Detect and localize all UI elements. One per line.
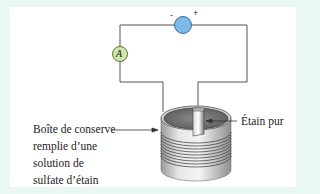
- tin-can-icon: [161, 106, 231, 181]
- can-label-line-1: Boîte de conserve: [33, 121, 115, 138]
- tin-label: Étain pur: [241, 113, 283, 130]
- can-label-line-4: sulfate d’étain: [33, 172, 98, 189]
- can-label-line-3: solution de: [33, 155, 84, 172]
- tin-electrode-icon: [193, 108, 204, 136]
- generator-minus-label: -: [170, 10, 173, 20]
- ammeter-label: A: [116, 45, 122, 62]
- wires: [120, 25, 247, 112]
- generator-plus-label: +: [193, 8, 198, 18]
- can-label-line-2: remplie d’une: [33, 138, 97, 155]
- generator-icon: [175, 17, 192, 34]
